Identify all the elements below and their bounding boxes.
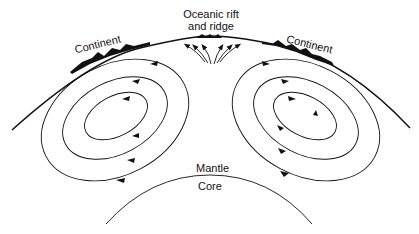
label-core: Core — [198, 180, 222, 192]
label-rift-line1: Oceanic rift — [176, 8, 246, 20]
convection-diagram — [0, 0, 419, 234]
convection-cell-left — [20, 35, 209, 205]
left-cell-arrows — [116, 61, 158, 183]
rift-arrows — [186, 45, 239, 64]
label-rift-line2: and ridge — [176, 20, 246, 32]
label-mantle: Mantle — [196, 162, 229, 174]
convection-cell-right — [211, 35, 400, 205]
ridge — [196, 34, 222, 38]
right-cell-arrows — [262, 61, 318, 177]
label-rift: Oceanic rift and ridge — [176, 8, 246, 32]
